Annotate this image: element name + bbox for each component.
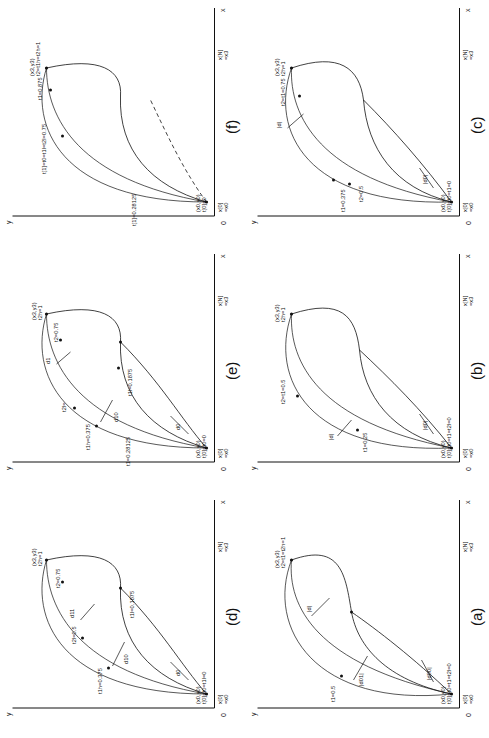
panel-caption-a: (a) — [467, 608, 484, 626]
panel-caption-c: (c) — [467, 117, 484, 135]
end-knot-label: x[N] =x3 — [461, 50, 474, 60]
t2l-label: t2l= — [60, 402, 66, 412]
d0-label: d0 — [174, 424, 180, 430]
panel-a: y x 0 t1=0.5 |d| |d00| |d01| (x0,y0) t[0… — [245, 492, 489, 738]
t2-label: t2=0.75 — [52, 322, 58, 342]
point-end — [44, 558, 47, 561]
panel-grid: y x 0 t1h=0.375 t2l=0.5 d10 d11 t2=0.75 … — [0, 0, 489, 738]
t1-label: t1=0.875 — [36, 77, 42, 100]
d00-label: |d00| — [425, 667, 431, 680]
panel-caption-f: (f) — [222, 120, 239, 134]
t2l-label: t2l=0.5 — [70, 626, 76, 644]
origin-label: 0 — [219, 467, 226, 471]
t2-t1-label: t2=t1=0.5 — [279, 379, 285, 404]
point-end — [44, 66, 47, 69]
y-axis-label: y — [249, 221, 256, 225]
point-t2l — [81, 637, 84, 640]
t10-label: t[1]=0.28125 — [130, 194, 136, 226]
x-axis-label: x — [463, 9, 470, 13]
t1-label: t1=0.25 — [361, 432, 367, 452]
start-knot-label: x[0] =x0 — [461, 449, 474, 458]
plot-b — [245, 246, 489, 492]
d0-label: d0 — [174, 670, 180, 676]
point-t1l — [119, 587, 122, 590]
panel-caption-d: (d) — [222, 608, 239, 626]
start-point-label: (x0,y0) t[0]=t0=0 — [194, 435, 207, 458]
t2b-label: t2=0.75 — [54, 568, 60, 588]
point-mid — [349, 611, 352, 614]
d10-label: d10 — [112, 412, 118, 422]
point-end — [289, 66, 292, 69]
t1h-label: t1h=0.375 — [84, 424, 90, 450]
t2-label: t2=0.5 — [357, 186, 363, 202]
start-point-label: (x0,y0) t[0]=t0=t1=0 — [439, 181, 452, 212]
d-label: |d| — [327, 434, 333, 440]
t1h-label: t1h=0.375 — [96, 668, 102, 694]
point-t1h — [107, 667, 110, 670]
x-axis-label: x — [218, 255, 225, 259]
origin-label: 0 — [464, 713, 471, 717]
d-label: |d| — [305, 606, 311, 612]
panel-caption-e: (e) — [222, 362, 239, 380]
d0-label: |d0| — [421, 420, 427, 430]
hull-seg-d1 — [56, 352, 70, 364]
panel-f: y x 0 t[1]=t0=t1l=t2l=0.75 t1=0.875 t[1]… — [0, 0, 245, 246]
point-t2 — [295, 395, 298, 398]
plot-e — [0, 246, 244, 492]
end-point-label: (x3,y3) t2h=1 — [30, 548, 43, 566]
point-t1l — [119, 341, 122, 344]
hull-seg-d11 — [80, 604, 94, 620]
end-point-label: (x3,y3) t2=t1h=t2h=1 — [28, 42, 41, 76]
origin-label: 0 — [464, 467, 471, 471]
start-knot-label: x[0] =x0 — [216, 203, 229, 212]
figure-canvas: y x 0 t1h=0.375 t2l=0.5 d10 d11 t2=0.75 … — [0, 0, 489, 738]
d01-label: |d01| — [357, 673, 363, 686]
end-point-label: (x3,y3) t2h=1 — [30, 302, 43, 320]
panel-b: y x 0 t2=t1=0.5 t1=0.25 |d| |d0| (x0,y0)… — [245, 246, 489, 492]
t1-label: t1=0.375 — [339, 189, 345, 212]
panel-e: y x 0 t1h=0.375 t2l= d10 t1=0.28125 t1l=… — [0, 246, 245, 492]
origin-label: 0 — [219, 713, 226, 717]
curve-outer-upper — [41, 314, 206, 448]
start-knot-label: x[0] =x0 — [461, 203, 474, 212]
d10-label: d10 — [122, 654, 128, 664]
panel-c: y x 0 t2=t1=0.75 t1=0.375 t2=0.5 |d0| |d… — [245, 0, 489, 246]
plot-d — [0, 492, 244, 738]
x-axis-label: x — [218, 9, 225, 13]
end-knot-label: x[N] =x3 — [461, 542, 474, 552]
end-knot-label: x[N] =x3 — [216, 296, 229, 306]
start-point-label: (x0,y0) t[0]=0 — [194, 194, 207, 212]
x-axis-label: x — [463, 255, 470, 259]
plot-a — [245, 492, 489, 738]
origin-label: 0 — [464, 221, 471, 225]
point-t2l — [73, 407, 76, 410]
curve-chord — [351, 612, 451, 694]
origin-label: 0 — [219, 221, 226, 225]
point-t1 — [339, 675, 342, 678]
start-knot-label: x[0] =x0 — [461, 695, 474, 704]
point-t1-top — [61, 135, 64, 138]
end-point-label: (x3,y3) t2=t1=t2h=1 — [273, 537, 286, 568]
point-t2 — [331, 179, 334, 182]
d1-label: d1 — [44, 358, 50, 364]
curve-bezier — [46, 64, 206, 202]
point-t2 — [59, 339, 62, 342]
t1-label-top: t[1]=t0=t1l=t2l=0.75 — [40, 124, 46, 174]
curve-chord — [363, 100, 451, 202]
t1-label: t1=0.5 — [329, 686, 335, 702]
panel-d: y x 0 t1h=0.375 t2l=0.5 d10 d11 t2=0.75 … — [0, 492, 245, 738]
start-point-label: (x0,y0) t[0]=t0=t1=t2l=0 — [439, 663, 452, 704]
plot-f — [0, 0, 244, 246]
point-end — [289, 312, 292, 315]
point-t2t1 — [297, 95, 300, 98]
x-axis-label: x — [463, 501, 470, 505]
y-axis-label: y — [249, 713, 256, 717]
y-axis-label: y — [249, 467, 256, 471]
start-knot-label: x[0] =x0 — [216, 449, 229, 458]
start-point-label: (x0,y0) t[0]=t0=t1=t2l=0 — [439, 417, 452, 458]
point-end — [44, 312, 47, 315]
t1l-label: t1l=0.1875 — [128, 591, 134, 618]
d-label: |d| — [275, 122, 281, 128]
curve-outer-upper — [41, 68, 206, 202]
d11-label: d11 — [68, 609, 74, 618]
